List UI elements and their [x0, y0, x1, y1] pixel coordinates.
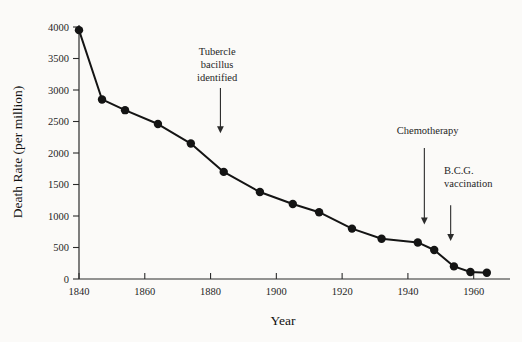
data-point	[377, 234, 385, 242]
x-tick-label: 1900	[266, 286, 287, 297]
y-tick-label: 2500	[48, 116, 69, 127]
data-point	[466, 268, 474, 276]
annotation-text: B.C.G.	[444, 165, 473, 176]
x-axis-title: Year	[271, 313, 296, 328]
annotation-text: vaccination	[444, 178, 493, 189]
data-point	[414, 238, 422, 246]
y-axis-title: Death Rate (per million)	[10, 86, 25, 218]
x-tick-label: 1880	[200, 286, 221, 297]
annotation-arrow-head	[217, 126, 224, 133]
y-tick-label: 4000	[48, 22, 69, 33]
data-point	[187, 139, 195, 147]
data-point	[220, 168, 228, 176]
x-tick-label: 1860	[134, 286, 155, 297]
y-axis-tick-labels: 05001000150020002500300035004000	[48, 22, 69, 285]
y-tick-label: 2000	[48, 148, 69, 159]
data-point	[315, 208, 323, 216]
annotation-arrow-head	[421, 218, 428, 225]
y-tick-label: 1000	[48, 211, 69, 222]
annotation-text: Tubercle	[199, 46, 236, 57]
data-point	[256, 188, 264, 196]
chart-plot-area: 05001000150020002500300035004000 1840186…	[0, 0, 522, 342]
x-tick-label: 1920	[332, 286, 353, 297]
annotation-arrow-head	[447, 234, 454, 241]
y-tick-label: 500	[53, 242, 69, 253]
data-point	[98, 95, 106, 103]
y-tick-label: 3000	[48, 85, 69, 96]
tuberculosis-death-rate-chart: 05001000150020002500300035004000 1840186…	[0, 0, 522, 342]
data-point	[483, 269, 491, 277]
y-tick-label: 0	[64, 274, 69, 285]
data-point	[289, 200, 297, 208]
annotation-text: bacillus	[201, 59, 234, 70]
data-point	[450, 262, 458, 270]
death-rate-line	[79, 30, 487, 273]
death-rate-markers	[75, 26, 491, 277]
data-point	[75, 26, 83, 34]
data-point	[154, 120, 162, 128]
x-axis-ticks	[79, 273, 474, 279]
data-point	[348, 224, 356, 232]
y-tick-label: 1500	[48, 179, 69, 190]
x-axis-tick-labels: 1840186018801900192019401960	[69, 286, 485, 297]
data-point	[430, 246, 438, 254]
y-axis-ticks	[73, 27, 79, 279]
chart-annotations: TuberclebacillusidentifiedChemotherapyB.…	[197, 46, 493, 241]
x-tick-label: 1840	[69, 286, 90, 297]
data-point	[121, 106, 129, 114]
annotation-text: Chemotherapy	[397, 125, 460, 136]
x-tick-label: 1960	[463, 286, 484, 297]
annotation-text: identified	[197, 72, 238, 83]
x-tick-label: 1940	[397, 286, 418, 297]
y-tick-label: 3500	[48, 53, 69, 64]
